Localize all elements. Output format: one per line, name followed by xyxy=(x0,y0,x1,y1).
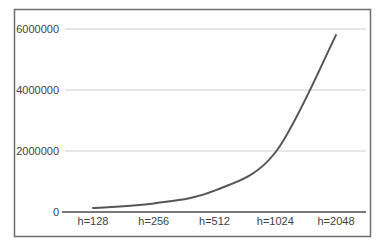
y-tick-label: 0 xyxy=(53,206,59,218)
x-tick-label: h=512 xyxy=(199,215,230,227)
y-tick-label: 2000000 xyxy=(16,145,59,157)
x-tick-label: h=1024 xyxy=(257,215,294,227)
chart-frame xyxy=(15,10,371,237)
y-tick-label: 6000000 xyxy=(16,23,59,35)
y-tick-label: 4000000 xyxy=(16,84,59,96)
chart-panel: 6000000 4000000 2000000 0 h=128 h=256 h=… xyxy=(0,0,382,249)
x-tick-label: h=2048 xyxy=(317,215,354,227)
x-tick-label: h=256 xyxy=(138,215,169,227)
line-chart: 6000000 4000000 2000000 0 h=128 h=256 h=… xyxy=(0,0,382,249)
x-tick-label: h=128 xyxy=(78,215,109,227)
